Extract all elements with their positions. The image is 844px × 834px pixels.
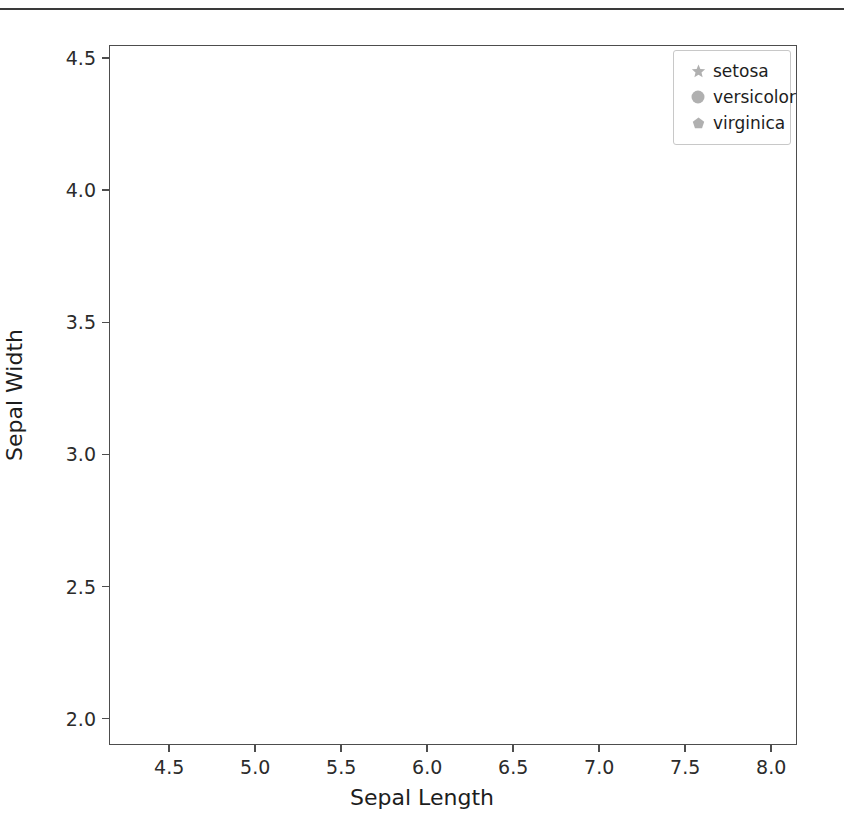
y-tick-label: 3.5 (66, 311, 96, 333)
circle-marker-icon (683, 90, 713, 104)
y-tick-label: 4.5 (66, 47, 96, 69)
x-tick-mark (168, 745, 170, 752)
y-tick-mark (102, 454, 109, 456)
x-tick-mark (770, 745, 772, 752)
x-tick-mark (512, 745, 514, 752)
x-tick-label: 5.5 (326, 756, 356, 778)
x-tick-mark (340, 745, 342, 752)
y-tick-label: 4.0 (66, 179, 96, 201)
x-tick-mark (426, 745, 428, 752)
legend-item-virginica[interactable]: virginica (683, 110, 781, 136)
legend-item-versicolor[interactable]: versicolor (683, 84, 781, 110)
y-axis-label: Sepal Width (2, 329, 27, 461)
x-tick-mark (254, 745, 256, 752)
x-tick-label: 6.5 (498, 756, 528, 778)
x-tick-label: 7.5 (670, 756, 700, 778)
scatter-chart-figure: 4.55.05.56.06.57.07.58.0 2.02.53.03.54.0… (0, 0, 844, 834)
y-tick-label: 3.0 (66, 443, 96, 465)
y-tick-mark (102, 322, 109, 324)
y-tick-label: 2.0 (66, 708, 96, 730)
legend-item-label: virginica (713, 113, 785, 133)
figure-background: 4.55.05.56.06.57.07.58.0 2.02.53.03.54.0… (0, 0, 844, 834)
x-tick-label: 5.0 (240, 756, 270, 778)
plot-axes-frame (109, 45, 797, 745)
y-tick-mark (102, 189, 109, 191)
x-tick-mark (684, 745, 686, 752)
x-tick-mark (598, 745, 600, 752)
y-tick-mark (102, 718, 109, 720)
legend-item-label: versicolor (713, 87, 796, 107)
x-tick-label: 8.0 (756, 756, 786, 778)
y-tick-mark (102, 57, 109, 59)
star-marker-icon (683, 64, 713, 79)
pentagon-marker-icon (683, 117, 713, 130)
x-tick-label: 6.0 (412, 756, 442, 778)
x-tick-label: 4.5 (154, 756, 184, 778)
y-tick-mark (102, 586, 109, 588)
x-axis-label: Sepal Length (0, 785, 844, 810)
chart-legend: setosaversicolorvirginica (673, 50, 791, 145)
y-tick-label: 2.5 (66, 576, 96, 598)
legend-item-setosa[interactable]: setosa (683, 58, 781, 84)
x-tick-label: 7.0 (584, 756, 614, 778)
legend-item-label: setosa (713, 61, 769, 81)
